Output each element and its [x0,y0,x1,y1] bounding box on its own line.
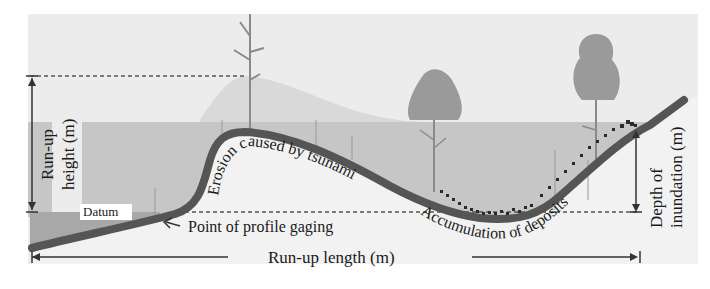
tsunami-runup-diagram: Run-up height (m) Datum Erosion caused b… [0,0,710,289]
datum-label: Datum [83,204,118,219]
runup-height-label-line2: height (m) [59,119,78,190]
depth-of-inundation-label-line2: inundation (m) [667,126,686,228]
depth-of-inundation-label-line1: Depth of [647,168,666,228]
point-of-profile-gaging-label: Point of profile gaging [188,218,333,236]
runup-length-label: Run-up length (m) [268,248,395,267]
runup-height-label-line1: Run-up [38,129,57,180]
